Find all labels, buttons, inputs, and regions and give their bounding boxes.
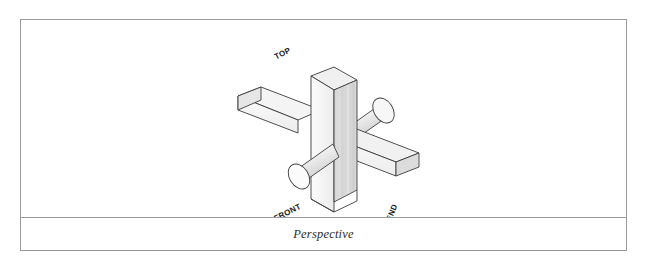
figure-caption: Perspective xyxy=(293,227,354,242)
figure-page: TOP FRONT END Perspective xyxy=(0,0,648,265)
left-horizontal-bar xyxy=(238,87,321,133)
caption-strip: Perspective xyxy=(21,218,626,250)
illustration-canvas: TOP FRONT END xyxy=(21,20,626,217)
figure-frame: TOP FRONT END Perspective xyxy=(20,19,627,251)
isometric-drawing xyxy=(21,20,626,217)
vertical-column xyxy=(311,67,357,212)
